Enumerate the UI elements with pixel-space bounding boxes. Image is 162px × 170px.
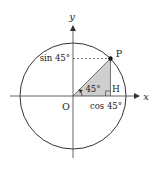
- point-p-label: P: [116, 48, 123, 59]
- angle-label: 45°: [85, 84, 100, 94]
- origin-label: O: [62, 101, 70, 112]
- sin-label: sin 45°: [40, 53, 70, 63]
- y-axis-label: y: [68, 11, 75, 22]
- point-h-label: H: [112, 84, 120, 94]
- x-axis-label: x: [143, 91, 149, 102]
- point-p-dot: [108, 56, 112, 60]
- cos-label: cos 45°: [90, 101, 122, 111]
- unit-circle-diagram: y x O P H 45° sin 45° cos 45°: [0, 0, 162, 170]
